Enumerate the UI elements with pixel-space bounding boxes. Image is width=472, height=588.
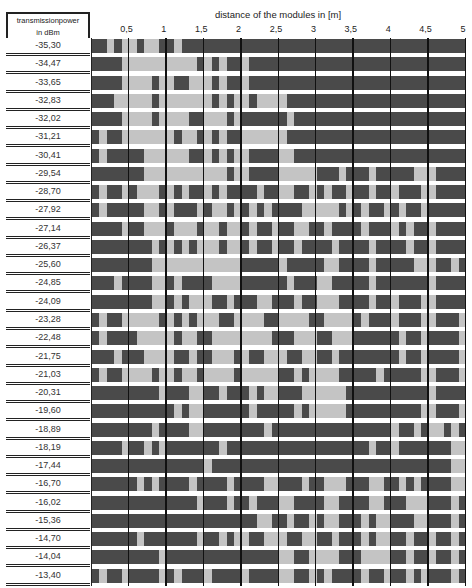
cell-dark bbox=[399, 167, 406, 181]
cell-dark bbox=[369, 423, 376, 437]
cell-light bbox=[182, 112, 189, 126]
cell-dark bbox=[212, 550, 219, 564]
cell-dark bbox=[249, 532, 256, 546]
cell-light bbox=[249, 130, 256, 144]
cell-dark bbox=[264, 258, 271, 272]
power-label: -24,85 bbox=[6, 275, 90, 293]
cell-dark bbox=[167, 276, 174, 290]
cell-light bbox=[212, 331, 219, 345]
cell-light bbox=[414, 477, 421, 491]
cell-dark bbox=[406, 149, 413, 163]
cell-dark bbox=[114, 39, 121, 53]
cell-dark bbox=[279, 423, 286, 437]
cell-dark bbox=[354, 130, 361, 144]
cell-dark bbox=[317, 94, 324, 108]
cell-dark bbox=[279, 57, 286, 71]
cell-light bbox=[227, 276, 234, 290]
cell-dark bbox=[354, 514, 361, 528]
cell-dark bbox=[219, 222, 226, 236]
cell-dark bbox=[92, 76, 99, 90]
cell-dark bbox=[219, 477, 226, 491]
cell-dark bbox=[279, 276, 286, 290]
cell-dark bbox=[107, 94, 114, 108]
cell-light bbox=[414, 423, 421, 437]
cell-dark bbox=[406, 477, 413, 491]
cell-dark bbox=[406, 39, 413, 53]
cell-dark bbox=[302, 130, 309, 144]
cell-dark bbox=[436, 477, 443, 491]
cell-dark bbox=[144, 276, 151, 290]
cell-dark bbox=[114, 496, 121, 510]
cell-dark bbox=[317, 477, 324, 491]
cell-light bbox=[279, 149, 286, 163]
cell-dark bbox=[249, 149, 256, 163]
cell-dark bbox=[361, 39, 368, 53]
gridline-vertical bbox=[165, 38, 167, 586]
power-label: -32,02 bbox=[6, 111, 90, 129]
cell-light bbox=[189, 94, 196, 108]
cell-dark bbox=[399, 76, 406, 90]
cell-dark bbox=[219, 459, 226, 473]
cell-dark bbox=[107, 532, 114, 546]
cell-dark bbox=[444, 222, 451, 236]
cell-dark bbox=[137, 514, 144, 528]
cell-dark bbox=[399, 258, 406, 272]
cell-light bbox=[144, 222, 151, 236]
cell-dark bbox=[92, 569, 99, 583]
cell-light bbox=[369, 295, 376, 309]
cell-dark bbox=[436, 569, 443, 583]
cell-dark bbox=[436, 295, 443, 309]
cell-light bbox=[152, 222, 159, 236]
cell-light bbox=[189, 258, 196, 272]
cell-dark bbox=[114, 57, 121, 71]
cell-dark bbox=[152, 368, 159, 382]
cell-light bbox=[332, 404, 339, 418]
cell-light bbox=[317, 404, 324, 418]
cell-dark bbox=[204, 514, 211, 528]
cell-light bbox=[391, 313, 398, 327]
cell-dark bbox=[369, 313, 376, 327]
cell-dark bbox=[174, 514, 181, 528]
cell-dark bbox=[294, 276, 301, 290]
cell-light bbox=[182, 167, 189, 181]
cell-light bbox=[324, 496, 331, 510]
cell-dark bbox=[302, 368, 309, 382]
cell-dark bbox=[376, 203, 383, 217]
cell-light bbox=[182, 185, 189, 199]
cell-dark bbox=[444, 94, 451, 108]
cell-light bbox=[174, 57, 181, 71]
cell-light bbox=[144, 203, 151, 217]
cell-dark bbox=[279, 477, 286, 491]
cell-light bbox=[361, 514, 368, 528]
cell-light bbox=[332, 331, 339, 345]
cell-dark bbox=[137, 276, 144, 290]
cell-light bbox=[137, 477, 144, 491]
heatmap-grid bbox=[91, 38, 466, 586]
cell-dark bbox=[406, 441, 413, 455]
cell-dark bbox=[399, 368, 406, 382]
cell-dark bbox=[219, 240, 226, 254]
cell-dark bbox=[167, 404, 174, 418]
cell-dark bbox=[414, 130, 421, 144]
cell-dark bbox=[129, 295, 136, 309]
cell-dark bbox=[354, 477, 361, 491]
cell-dark bbox=[219, 496, 226, 510]
cell-dark bbox=[294, 569, 301, 583]
cell-dark bbox=[144, 496, 151, 510]
cell-dark bbox=[219, 550, 226, 564]
cell-dark bbox=[302, 514, 309, 528]
cell-dark bbox=[287, 368, 294, 382]
cell-dark bbox=[369, 331, 376, 345]
cell-dark bbox=[429, 331, 436, 345]
cell-dark bbox=[137, 459, 144, 473]
cell-dark bbox=[391, 130, 398, 144]
power-label: -26,37 bbox=[6, 239, 90, 257]
cell-light bbox=[264, 477, 271, 491]
heatmap-row bbox=[92, 404, 466, 418]
cell-dark bbox=[429, 569, 436, 583]
cell-dark bbox=[114, 185, 121, 199]
cell-dark bbox=[302, 39, 309, 53]
cell-dark bbox=[242, 258, 249, 272]
cell-dark bbox=[137, 222, 144, 236]
y-axis-header: transmissionpower in dBm bbox=[6, 12, 90, 40]
